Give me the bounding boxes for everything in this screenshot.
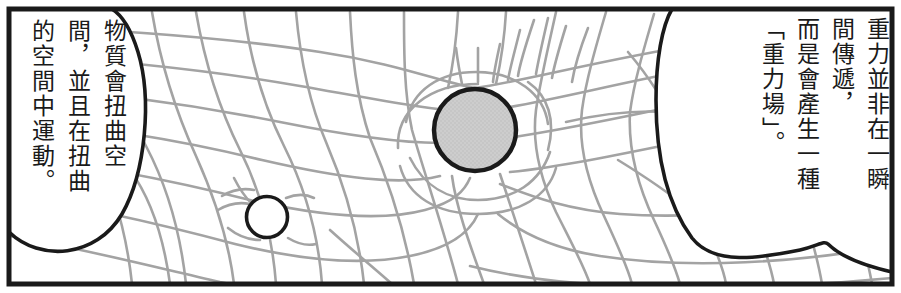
large-mass-sphere xyxy=(434,89,516,171)
speech-balloon-right xyxy=(656,9,892,272)
manga-panel: 物質會扭曲空 間，並且在扭曲 的空間中運動。 重力並非在一瞬 間傳遞， 而是會產… xyxy=(0,0,901,293)
small-mass-circle xyxy=(247,197,288,238)
spacetime-diagram xyxy=(0,0,901,293)
